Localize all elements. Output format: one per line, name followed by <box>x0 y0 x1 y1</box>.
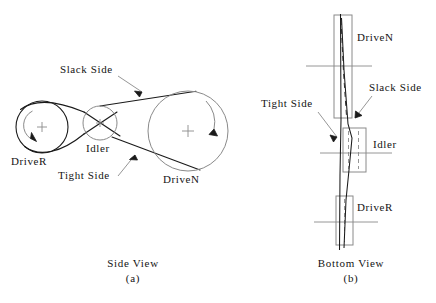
side-view-caption: Side View (a) <box>78 256 188 286</box>
bottom-driven-label: DriveN <box>357 31 394 43</box>
side-tight-side-label: Tight Side <box>58 169 110 181</box>
bottom-view-group <box>306 14 392 250</box>
slack-side-leader-left <box>118 76 142 97</box>
tight-side-leader-left <box>118 155 138 176</box>
belt-tight-bottom-run <box>112 137 200 170</box>
bottom-view-caption: Bottom View (b) <box>296 256 406 286</box>
side-view-caption-sub: (a) <box>78 271 188 286</box>
belt-drive-figure: Slack Side Tight Side DriveR Idler Drive… <box>0 0 436 303</box>
side-view-group <box>16 76 228 176</box>
side-slack-side-label: Slack Side <box>60 63 113 75</box>
side-view-caption-title: Side View <box>78 256 188 271</box>
bottom-tight-side-label: Tight Side <box>261 97 313 109</box>
bottom-belt-strands <box>340 14 353 250</box>
bottom-idler-label: Idler <box>373 138 397 150</box>
slack-side-leader-right <box>355 96 372 118</box>
bottom-view-caption-sub: (b) <box>296 271 406 286</box>
side-pulley-driven-center-mark <box>182 125 194 137</box>
belt-path <box>21 91 201 170</box>
bottom-driver-label: DriveR <box>357 201 393 213</box>
driver-rotation-arrow-icon <box>24 111 37 142</box>
bottom-pulley-idler <box>343 128 366 172</box>
driven-rotation-arrow-icon <box>206 101 218 136</box>
side-idler-label: Idler <box>86 142 110 154</box>
belt-slack-top-run <box>100 91 196 106</box>
side-pulley-driver-center-mark <box>37 122 47 132</box>
bottom-belt-strand-tight <box>340 14 342 250</box>
side-driven-label: DriveN <box>163 173 200 185</box>
side-driver-label: DriveR <box>11 155 47 167</box>
bottom-view-caption-title: Bottom View <box>296 256 406 271</box>
bottom-slack-side-label: Slack Side <box>369 81 422 93</box>
